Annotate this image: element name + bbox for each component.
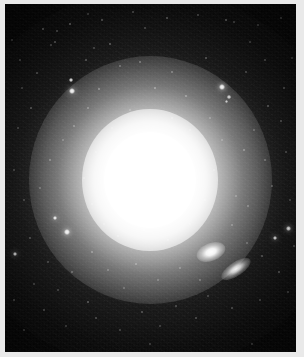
sky-grain-texture-secondary bbox=[5, 4, 296, 352]
sky-plate bbox=[5, 4, 296, 352]
image-frame bbox=[0, 0, 304, 357]
